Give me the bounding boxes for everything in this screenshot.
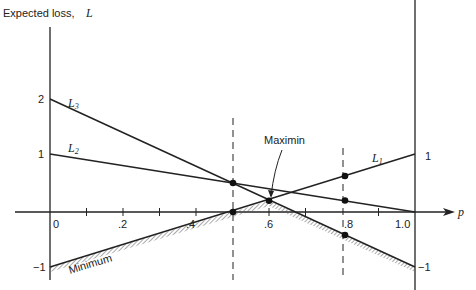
x-tick-0.2: .2 — [118, 218, 127, 230]
x-tick-0.6: .6 — [264, 218, 273, 230]
y-tick-right-minus1: −1 — [418, 261, 431, 273]
label-L2: L2 — [67, 141, 79, 156]
x-axis-symbol: p — [457, 205, 464, 219]
maximin-arrow-icon — [268, 190, 274, 198]
x-tick-0: 0 — [53, 218, 59, 230]
x-tick-0.8: .8 — [344, 218, 353, 230]
y-axis-title: Expected loss, — [3, 7, 75, 19]
y-tick-right-1: 1 — [425, 150, 431, 162]
label-L3: L3 — [67, 96, 79, 111]
y-tick-left-minus1: −1 — [33, 261, 46, 273]
maximin-label: Maximin — [264, 134, 305, 146]
y-axis-symbol: L — [85, 6, 93, 20]
y-tick-left-2: 2 — [38, 93, 44, 105]
label-L1: L1 — [371, 151, 383, 166]
y-tick-left-1: 1 — [38, 148, 44, 160]
x-tick-1.0: 1.0 — [395, 218, 410, 230]
decision-diagram: Expected loss, L p 0 .2 .4 .6 .8 1.0 2 1… — [0, 0, 476, 290]
